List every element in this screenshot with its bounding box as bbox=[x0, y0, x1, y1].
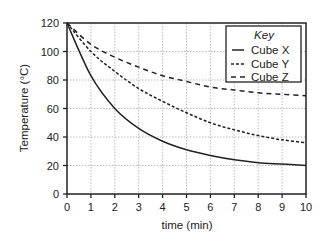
y-tick-label: 0 bbox=[53, 188, 59, 200]
y-tick-label: 20 bbox=[47, 160, 59, 172]
x-tick-label: 7 bbox=[231, 201, 237, 213]
temperature-chart: 012345678910020406080100120 time (min) T… bbox=[0, 0, 331, 243]
x-tick-label: 5 bbox=[183, 201, 189, 213]
legend-item-cube-x: Cube X bbox=[251, 44, 290, 56]
x-tick-label: 10 bbox=[300, 201, 312, 213]
x-tick-label: 2 bbox=[112, 201, 118, 213]
legend-item-cube-z: Cube Z bbox=[251, 71, 289, 83]
x-tick-label: 9 bbox=[279, 201, 285, 213]
y-tick-label: 100 bbox=[41, 46, 59, 58]
x-axis-label: time (min) bbox=[161, 219, 212, 231]
y-axis-label: Temperature (°C) bbox=[18, 64, 30, 152]
y-tick-label: 120 bbox=[41, 17, 59, 29]
x-tick-label: 6 bbox=[207, 201, 213, 213]
y-tick-label: 60 bbox=[47, 103, 59, 115]
legend: Key Cube X Cube Y Cube Z bbox=[226, 26, 301, 83]
legend-item-cube-y: Cube Y bbox=[251, 58, 289, 70]
x-tick-label: 3 bbox=[136, 201, 142, 213]
x-tick-label: 1 bbox=[88, 201, 94, 213]
x-tick-label: 0 bbox=[64, 201, 70, 213]
x-tick-label: 8 bbox=[255, 201, 261, 213]
y-tick-label: 40 bbox=[47, 131, 59, 143]
x-tick-label: 4 bbox=[160, 201, 166, 213]
y-tick-label: 80 bbox=[47, 74, 59, 86]
legend-title: Key bbox=[254, 29, 275, 41]
